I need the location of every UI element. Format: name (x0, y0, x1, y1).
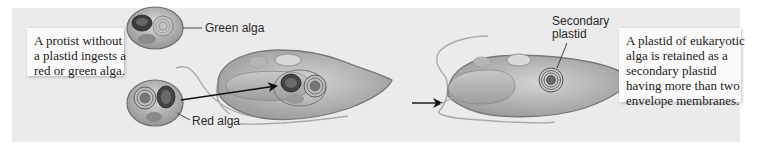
caption-step1: A protist without a plastid ingests a re… (27, 28, 124, 76)
red-alga-cell (127, 80, 183, 126)
red-alga-leader-line (177, 113, 190, 120)
caption-step1-line: a plastid ingests a (34, 48, 117, 63)
caption-step2-line: A plastid of eukaryotic (626, 33, 734, 48)
host-protist-cell-2 (437, 36, 630, 123)
caption-step2-line: envelope membranes. (626, 93, 734, 108)
caption-step2-line: alga is retained as a (626, 48, 734, 63)
endosymbiosis-diagram: A protist without a plastid ingests a re… (0, 0, 758, 148)
label-green-alga: Green alga (205, 22, 264, 35)
label-secondary-plastid-2: plastid (552, 28, 587, 41)
host-protist-cell-1 (176, 50, 392, 124)
green-alga-cell (127, 7, 183, 49)
label-red-alga: Red alga (192, 115, 240, 128)
caption-step1-line: red or green alga. (34, 63, 117, 78)
caption-step2-line: having more than two (626, 78, 734, 93)
secondary-plastid (539, 68, 563, 92)
caption-step1-line: A protist without (34, 33, 117, 48)
caption-step2-line: secondary plastid (626, 63, 734, 78)
caption-step2: A plastid of eukaryotic alga is retained… (619, 28, 741, 102)
